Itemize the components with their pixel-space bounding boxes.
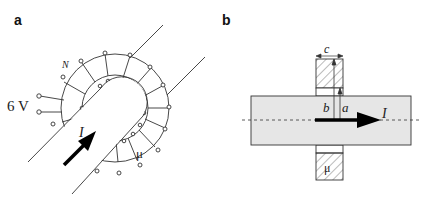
terminal-minus: [37, 110, 41, 114]
conductor: [28, 25, 205, 194]
label-mu-a: μ: [136, 146, 143, 161]
voltage-terminals: [37, 94, 64, 114]
panel-b: b: [215, 0, 429, 200]
label-N: N: [61, 59, 70, 70]
panel-a: a: [0, 0, 215, 200]
label-a: a: [342, 100, 349, 115]
label-b: b: [323, 100, 330, 115]
terminal-plus: [37, 94, 41, 98]
label-mu-b: μ: [324, 161, 330, 175]
cross-section-diagram: c b a I μ: [215, 0, 429, 200]
dimension-c: [316, 54, 343, 58]
toroid-coil-diagram: N 6 V I μ: [0, 0, 215, 200]
label-c: c: [324, 42, 330, 56]
label-voltage: 6 V: [7, 98, 29, 114]
